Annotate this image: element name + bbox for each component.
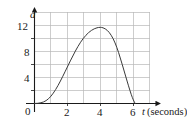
x-axis-unit: (seconds) xyxy=(147,106,187,117)
origin-label: 0 xyxy=(25,106,31,117)
x-axis-variable: t xyxy=(142,106,145,117)
y-axis-tick-marks xyxy=(31,38,34,90)
horizontal-gridlines xyxy=(34,12,150,90)
x-tick-label-6: 6 xyxy=(130,107,136,118)
vertical-gridlines xyxy=(51,12,150,103)
y-axis-label: a xyxy=(30,9,36,20)
y-tick-label-8: 8 xyxy=(24,47,30,58)
y-tick-label-12: 12 xyxy=(17,21,28,32)
y-tick-label-4: 4 xyxy=(24,73,30,84)
x-tick-label-2: 2 xyxy=(64,107,70,118)
x-tick-label-4: 4 xyxy=(97,107,103,118)
x-axis-label: t(seconds) xyxy=(142,107,187,118)
acceleration-curve xyxy=(35,27,136,103)
acceleration-time-graph-figure: a 12 8 4 0 2 4 6 t(seconds) xyxy=(0,0,187,126)
